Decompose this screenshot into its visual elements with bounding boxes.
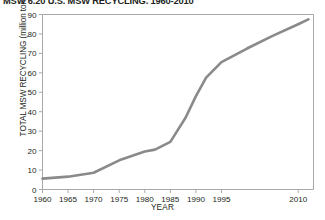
- chart-figure: MSW 6.20 U.S. MSW RECYCLING, 1960-2010 T…: [0, 0, 325, 220]
- y-tick-label: 50: [27, 88, 37, 97]
- x-tick-label: 1960: [33, 195, 52, 204]
- y-tick-label: 10: [27, 166, 37, 175]
- y-tick-label: 0: [32, 186, 37, 195]
- x-tick-label: 2010: [289, 195, 308, 204]
- y-tick-label: 80: [27, 30, 37, 39]
- x-tick-label: 1970: [85, 195, 104, 204]
- y-tick-label: 20: [27, 147, 37, 156]
- y-tick-label: 40: [27, 108, 37, 117]
- x-tick-label: 1995: [212, 195, 231, 204]
- axis-frame: [43, 15, 314, 190]
- x-axis-ticks: 196019651970197519801985199019952010: [33, 190, 307, 204]
- x-tick-label: 1985: [161, 195, 180, 204]
- plot-area: 0102030405060708090 19601965197019751980…: [0, 0, 325, 220]
- chart-svg: 0102030405060708090 19601965197019751980…: [0, 0, 325, 220]
- y-tick-label: 30: [27, 127, 37, 136]
- y-tick-label: 90: [27, 11, 37, 20]
- y-tick-label: 60: [27, 69, 37, 78]
- y-tick-label: 70: [27, 49, 37, 58]
- x-tick-label: 1980: [136, 195, 155, 204]
- data-series-group: [43, 19, 309, 178]
- x-tick-label: 1990: [187, 195, 206, 204]
- y-axis-ticks: 0102030405060708090: [27, 11, 42, 195]
- data-line: [43, 19, 309, 178]
- x-tick-label: 1965: [59, 195, 78, 204]
- x-tick-label: 1975: [110, 195, 129, 204]
